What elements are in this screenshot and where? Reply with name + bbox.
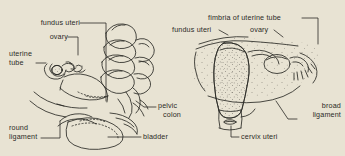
label-round-ligament-line2: ligament: [9, 133, 37, 141]
label-uterine-tube-line2: tube: [9, 59, 24, 67]
label-fimbria-of-uterine-tube: fimbria of uterine tube: [208, 14, 281, 22]
label-broad-ligament-line2: ligament: [281, 111, 341, 119]
label-cervix-uteri: cervix uteri: [241, 133, 278, 141]
label-fundus-uteri-right: fundus uteri: [172, 26, 211, 34]
label-bladder: bladder: [143, 133, 168, 141]
left-figure-art: [30, 24, 154, 150]
anatomy-illustration: fundus uteri ovary uterine tube round li…: [0, 0, 345, 156]
label-ovary-right: ovary: [250, 26, 268, 34]
label-ovary-left: ovary: [0, 33, 68, 41]
label-fundus-uteri-left: fundus uteri: [0, 19, 80, 27]
label-pelvic-colon-line2: colon: [163, 111, 181, 119]
